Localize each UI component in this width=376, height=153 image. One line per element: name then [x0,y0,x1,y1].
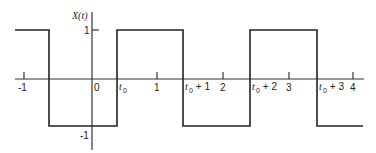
transition-label-t0-plus-3: t 0 + 3 [319,81,344,94]
x-tick-label-4: 4 [350,82,356,93]
x-ticks [24,72,353,79]
x-tick-label-2: 2 [220,82,226,93]
svg-text:t: t [252,81,255,92]
x-tick-label-1: 1 [154,82,160,93]
square-wave-signal [15,30,363,126]
svg-text:t: t [185,81,188,92]
transition-label-t0: t 0 [119,81,127,94]
square-wave-figure: X(t) 1 -1 -1 0 1 2 3 4 t 0 t 0 + 1 t 0 +… [0,0,376,153]
x-tick-label-0: 0 [94,82,100,93]
x-tick-label-3: 3 [286,82,292,93]
svg-text:+ 3: + 3 [327,81,344,92]
y-tick-label-1: 1 [84,25,90,36]
svg-text:t: t [119,81,122,92]
svg-text:+ 1: + 1 [193,81,210,92]
svg-text:0: 0 [123,87,127,94]
x-tick-label-neg1: -1 [18,82,27,93]
y-axis-label: X(t) [71,10,88,22]
y-tick-label-neg1: -1 [80,130,89,141]
svg-text:t: t [319,81,322,92]
transition-label-t0-plus-2: t 0 + 2 [252,81,277,94]
svg-text:+ 2: + 2 [260,81,277,92]
transition-label-t0-plus-1: t 0 + 1 [185,81,210,94]
